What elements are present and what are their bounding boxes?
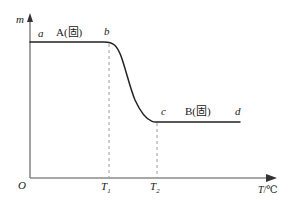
point-label-a: a [38, 28, 44, 39]
point-label-d: d [235, 106, 241, 117]
x-tick-label-t2: T2 [150, 181, 160, 195]
x-tick-t1-sub: 1 [107, 187, 111, 195]
y-axis [27, 13, 33, 178]
point-label-b: b [104, 26, 110, 37]
segment-label-b-solid: B(固) [185, 106, 211, 117]
segment-label-a-solid: A(固) [56, 27, 82, 38]
x-axis-title: T/℃ [258, 185, 278, 195]
point-label-c: c [161, 106, 166, 117]
origin-label: O [18, 180, 26, 191]
graph-canvas [0, 0, 295, 203]
x-tick-label-t1: T1 [101, 181, 111, 195]
x-axis-arrow-icon [266, 174, 277, 182]
y-axis-arrow-icon [27, 13, 33, 22]
x-tick-t2-sub: 2 [156, 187, 160, 195]
x-axis-title-unit: /℃ [264, 184, 278, 195]
mass-temperature-graph: m O a A(固) b c B(固) d T1 T2 T/℃ [0, 0, 295, 203]
y-axis-label: m [16, 14, 24, 25]
